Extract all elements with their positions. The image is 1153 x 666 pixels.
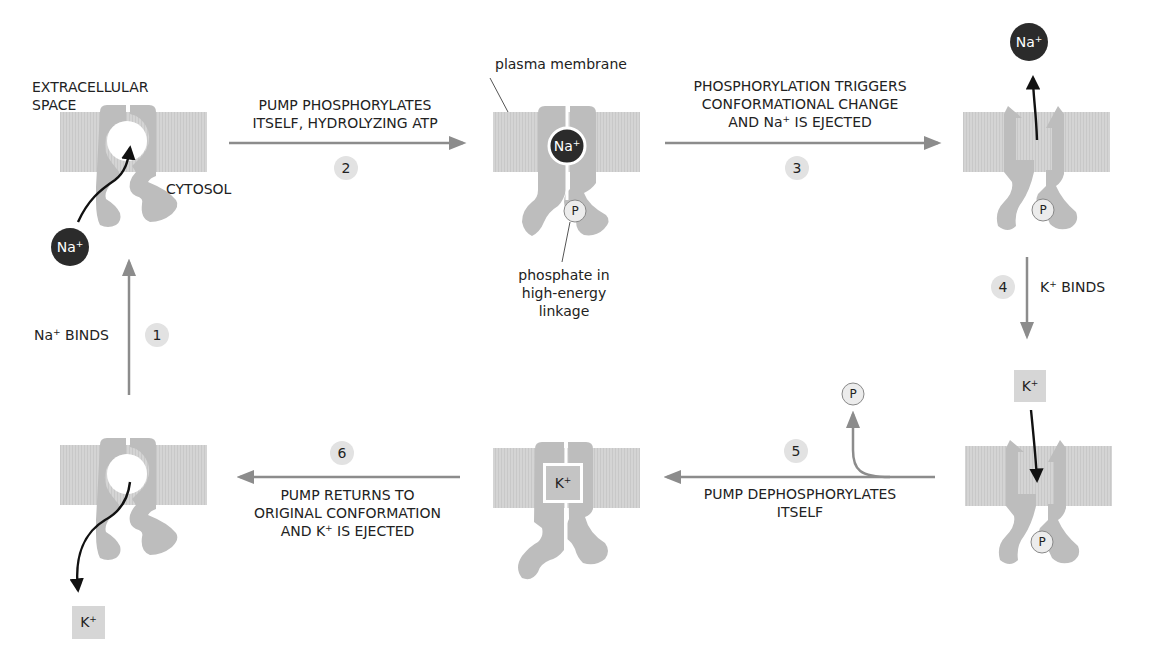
ion-charge: + (564, 475, 572, 485)
ion-charge: + (783, 114, 791, 124)
label-line: EXTRACELLULAR (32, 78, 148, 96)
step-1-badge: 1 (145, 323, 169, 347)
na-ion-label: Na+ (1010, 33, 1048, 51)
ion-charge: + (325, 523, 333, 533)
membrane (965, 446, 1112, 506)
ion-charge: + (1035, 34, 1043, 44)
ion-symbol: Na (57, 239, 76, 255)
step-5-label: PUMP DEPHOSPHORYLATES ITSELF (670, 485, 930, 521)
phosphate-leader (562, 222, 570, 262)
extracellular-space-label: EXTRACELLULAR SPACE (32, 78, 148, 114)
phosphate-label: P (1031, 533, 1053, 551)
ion-charge: + (89, 614, 97, 624)
pump-cycle-diagram (0, 0, 1153, 666)
ion-charge: + (573, 138, 581, 148)
ion-charge: + (76, 239, 84, 249)
ion-charge: + (53, 327, 61, 337)
ion-symbol: K (1022, 378, 1031, 394)
step-4-label: K+ BINDS (1040, 278, 1105, 296)
cytosol-label: CYTOSOL (166, 180, 231, 198)
label-line: CONFORMATIONAL CHANGE (660, 95, 940, 113)
plasma-membrane-label: plasma membrane (495, 55, 627, 73)
na-ion-label: Na+ (548, 137, 586, 155)
step-3-label: PHOSPHORYLATION TRIGGERS CONFORMATIONAL … (660, 77, 940, 131)
pump-state-6 (60, 438, 207, 639)
step-3-badge: 3 (785, 156, 809, 180)
pump-state-5 (493, 442, 640, 579)
label-text: BINDS (1057, 279, 1105, 295)
ion-symbol: K (80, 614, 89, 630)
label-line: linkage (504, 302, 624, 320)
ion-charge: + (1031, 378, 1039, 388)
label-line: ITSELF, HYDROLYZING ATP (230, 114, 460, 132)
k-ion-label: K+ (72, 613, 105, 631)
label-text: AND Na (728, 114, 782, 130)
label-text: AND K (281, 523, 325, 539)
label-line: AND Na+ IS EJECTED (660, 113, 940, 131)
step-4-badge: 4 (991, 275, 1015, 299)
ion-symbol: Na (1016, 34, 1035, 50)
ion-symbol: Na (554, 138, 573, 154)
label-line: SPACE (32, 96, 148, 114)
step-6-badge: 6 (330, 441, 354, 465)
step-2-label: PUMP PHOSPHORYLATES ITSELF, HYDROLYZING … (230, 96, 460, 132)
label-text: Na (34, 327, 53, 343)
binding-pocket (107, 121, 147, 161)
label-line: PUMP DEPHOSPHORYLATES (670, 485, 930, 503)
k-ion-label: K+ (546, 474, 580, 492)
arrow-phosphate-release (853, 414, 890, 477)
plasma-membrane-leader (490, 78, 508, 112)
label-line: ORIGINAL CONFORMATION (225, 504, 470, 522)
label-line: PUMP RETURNS TO (225, 486, 470, 504)
label-line: high-energy (504, 284, 624, 302)
label-text: IS EJECTED (333, 523, 415, 539)
phosphate-linkage-label: phosphate in high-energy linkage (504, 266, 624, 320)
phosphate-label: P (1032, 201, 1054, 219)
label-line: AND K+ IS EJECTED (225, 522, 470, 540)
step-2-badge: 2 (334, 156, 358, 180)
label-line: PUMP PHOSPHORYLATES (230, 96, 460, 114)
label-text: K (1040, 279, 1049, 295)
pump-state-2 (490, 78, 640, 262)
label-line: PHOSPHORYLATION TRIGGERS (660, 77, 940, 95)
ion-symbol: K (555, 475, 564, 491)
phosphate-label: P (564, 202, 586, 220)
step-1-label: Na+ BINDS (34, 326, 109, 344)
label-text: BINDS (61, 327, 109, 343)
step-5-badge: 5 (784, 439, 808, 463)
pump-state-3 (963, 23, 1110, 230)
ion-charge: + (1049, 279, 1057, 289)
label-line: ITSELF (670, 503, 930, 521)
label-text: IS EJECTED (790, 114, 872, 130)
label-line: phosphate in (504, 266, 624, 284)
phosphate-label: P (842, 385, 864, 403)
binding-pocket (107, 454, 147, 494)
k-ion-label: K+ (1014, 377, 1046, 395)
na-ion-label: Na+ (51, 238, 89, 256)
step-6-label: PUMP RETURNS TO ORIGINAL CONFORMATION AN… (225, 486, 470, 540)
